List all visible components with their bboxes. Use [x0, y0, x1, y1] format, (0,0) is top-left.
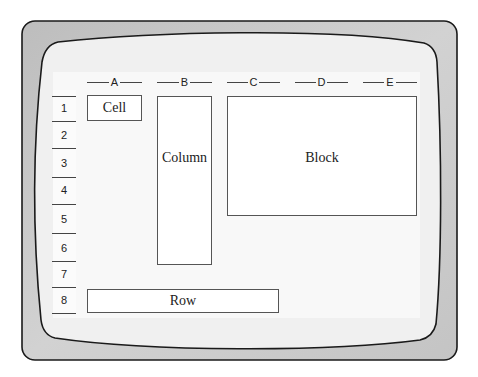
header-rule — [259, 82, 280, 83]
column-header-c: C — [227, 76, 280, 88]
header-rule — [227, 82, 248, 83]
row-rule — [52, 148, 76, 149]
header-rule — [157, 82, 179, 83]
column-header-a: A — [87, 76, 142, 88]
row-number-5: 5 — [52, 213, 76, 225]
row-header-strip — [53, 90, 76, 314]
header-rule — [396, 82, 417, 83]
row-rule — [52, 233, 76, 234]
row-rule — [52, 121, 76, 122]
header-rule — [120, 82, 142, 83]
row-number-8: 8 — [52, 294, 76, 306]
row-number-4: 4 — [52, 184, 76, 196]
row-rule — [52, 261, 76, 262]
header-rule — [327, 82, 348, 83]
row-label: Row — [88, 293, 278, 309]
header-rule — [87, 82, 109, 83]
column-region: Column — [157, 96, 212, 265]
spreadsheet-diagram: A B C D E 1 2 3 4 5 6 7 8 Cell Column — [0, 0, 478, 377]
header-rule — [363, 82, 384, 83]
row-number-3: 3 — [52, 157, 76, 169]
column-letter: E — [384, 76, 395, 88]
cell-label: Cell — [88, 100, 141, 116]
row-rule — [52, 177, 76, 178]
row-rule — [52, 313, 76, 314]
column-letter: B — [179, 76, 190, 88]
column-letter: D — [316, 76, 328, 88]
column-header-e: E — [363, 76, 417, 88]
row-rule — [52, 287, 76, 288]
column-letter: C — [248, 76, 260, 88]
column-header-b: B — [157, 76, 212, 88]
row-region: Row — [87, 289, 279, 313]
column-letter: A — [109, 76, 120, 88]
row-number-6: 6 — [52, 242, 76, 254]
header-rule — [190, 82, 212, 83]
column-header-d: D — [295, 76, 348, 88]
row-rule — [52, 96, 76, 97]
header-rule — [295, 82, 316, 83]
row-number-2: 2 — [52, 129, 76, 141]
row-number-7: 7 — [52, 268, 76, 280]
block-region: Block — [227, 96, 417, 216]
cell-region: Cell — [87, 95, 142, 121]
column-label: Column — [158, 150, 211, 166]
row-number-1: 1 — [52, 102, 76, 114]
block-label: Block — [228, 150, 416, 166]
row-rule — [52, 204, 76, 205]
